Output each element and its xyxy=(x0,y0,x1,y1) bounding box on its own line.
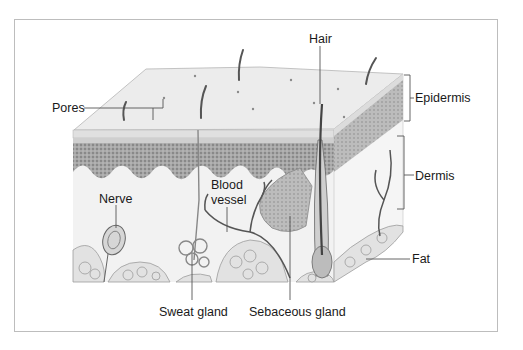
label-hair: Hair xyxy=(309,32,332,46)
label-nerve: Nerve xyxy=(99,192,132,206)
label-pores: Pores xyxy=(52,101,85,115)
label-dermis: Dermis xyxy=(415,169,455,183)
label-sweat-gland: Sweat gland xyxy=(159,305,228,319)
label-epidermis: Epidermis xyxy=(415,91,471,105)
label-sebaceous-gland: Sebaceous gland xyxy=(249,305,346,319)
label-blood-vessel-line1: Blood xyxy=(211,178,243,192)
label-fat: Fat xyxy=(412,252,430,266)
label-blood-vessel-line2: vessel xyxy=(211,193,246,207)
